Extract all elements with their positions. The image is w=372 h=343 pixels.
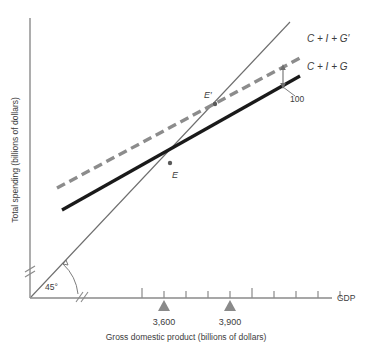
x-tick-label-3600: 3,600 xyxy=(153,317,176,327)
series-label-solid: C + I + G xyxy=(307,61,348,72)
x-marker-3900 xyxy=(224,300,236,311)
angle-arc xyxy=(63,264,78,294)
chart-canvas: 45° E E′ C + I + G′ C + I + G 100 3,600 … xyxy=(0,0,372,343)
y-axis-title: Total spending (billions of dollars) xyxy=(10,97,20,223)
x-marker-3600 xyxy=(158,300,170,311)
series-line-solid xyxy=(62,76,300,210)
series-label-dashed: C + I + G′ xyxy=(307,33,351,44)
point-e-dot xyxy=(168,161,172,165)
gap-value-label: 100 xyxy=(290,94,304,104)
x-axis-title: Gross domestic product (billions of doll… xyxy=(106,332,267,342)
point-e-prime-label: E′ xyxy=(204,90,212,100)
point-e-prime-dot xyxy=(213,102,217,106)
point-e-label: E xyxy=(172,170,179,180)
x-axis-ticks xyxy=(142,288,340,298)
x-axis-end-label: GDP xyxy=(337,293,356,303)
x-tick-label-3900: 3,900 xyxy=(219,317,242,327)
angle-label: 45° xyxy=(45,282,58,292)
forty-five-degree-line xyxy=(31,22,290,297)
series-line-dashed xyxy=(57,58,300,188)
economics-ae-chart: 45° E E′ C + I + G′ C + I + G 100 3,600 … xyxy=(0,0,372,343)
angle-arrow-head-icon xyxy=(63,260,68,265)
